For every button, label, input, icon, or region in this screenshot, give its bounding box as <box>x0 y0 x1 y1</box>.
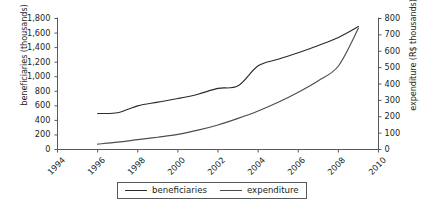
series-line-expenditure <box>98 28 359 144</box>
legend-label: beneficiaries <box>152 185 207 195</box>
chart-container: beneficiaries (thousands) expenditure (R… <box>0 0 436 206</box>
legend-label: expenditure <box>247 185 299 195</box>
legend-item-beneficiaries[interactable]: beneficiaries <box>125 185 207 195</box>
plot-area <box>0 0 436 206</box>
series-lines <box>98 27 359 145</box>
legend-line-swatch-icon <box>125 190 147 191</box>
legend-line-swatch-icon <box>220 190 242 191</box>
tick-marks <box>55 19 382 153</box>
series-line-beneficiaries <box>98 27 359 114</box>
legend-item-expenditure[interactable]: expenditure <box>220 185 299 195</box>
axis-lines <box>58 18 379 150</box>
legend: beneficiariesexpenditure <box>117 182 307 199</box>
